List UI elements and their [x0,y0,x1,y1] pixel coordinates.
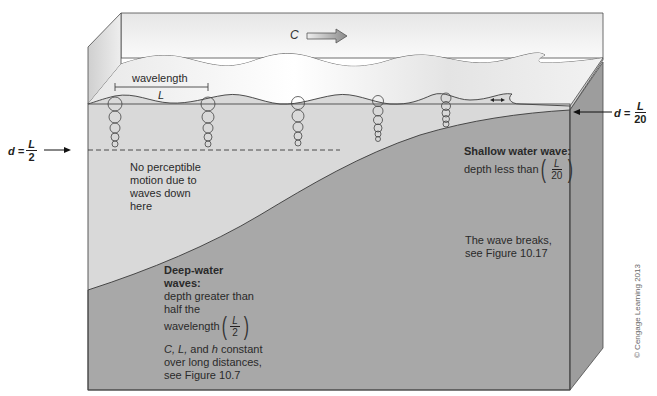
shallow-fraction: ( L 20 ) [539,156,575,182]
deep-title-line-2: waves: [164,277,262,290]
wave-diagram: C wavelength L d = L 2 d = L 20 No perce… [0,0,657,396]
deep-limit-label: d = L 2 [8,138,39,163]
deep-constant-and: and [187,343,211,355]
no-motion-line-3: waves down [130,187,201,200]
no-motion-line-1: No perceptible [130,161,201,174]
back-wall [121,13,603,58]
deep-constant-line-3: see Figure 10.7 [164,369,262,382]
wave-breaks-line-1: The wave breaks, [465,234,552,247]
wavelength-label: wavelength [132,72,188,85]
no-motion-line-2: motion due to [130,174,201,187]
deep-limit-lhs: d = [8,145,24,157]
box-right-face [570,58,603,390]
deep-constant-line-1: C, L, and h constant [164,343,262,356]
arrow-deep-limit [44,147,71,153]
shallow-limit-denominator: 20 [632,113,648,125]
deep-limit-denominator: 2 [27,151,37,163]
shallow-limit-fraction: L 20 [632,100,648,125]
wave-breaks-line-2: see Figure 10.17 [465,247,552,260]
deep-fraction: ( L 2 ) [220,313,251,339]
shallow-frac-numerator: L [552,158,562,170]
deep-constant-rest: constant [218,343,263,355]
shallow-desc: depth less than ( L 20 ) [464,156,575,182]
shallow-limit-label: d = L 20 [614,100,650,125]
wave-breaks-note: The wave breaks, see Figure 10.17 [465,234,552,260]
shallow-limit-numerator: L [635,100,646,113]
no-motion-note: No perceptible motion due to waves down … [130,161,201,213]
deep-constant-line-2: over long distances, [164,356,262,369]
shallow-desc-text: depth less than [464,163,539,176]
deep-frac-numerator: L [230,315,240,327]
shallow-limit-lhs: d = [614,107,630,119]
wavelength-symbol: L [158,89,164,102]
deep-frac-denominator: 2 [230,327,240,338]
deep-constant-symbols: C, L, [164,343,187,355]
deep-desc-line-1: depth greater than [164,290,262,303]
deep-water-note: Deep-water waves: depth greater than hal… [164,264,262,382]
deep-limit-numerator: L [26,138,37,151]
deep-desc-wavelength: wavelength [164,320,220,333]
deep-desc-line-3: wavelength ( L 2 ) [164,313,262,339]
shallow-frac-denominator: 20 [549,170,564,181]
copyright-notice: © Cengage Learning 2013 [633,264,642,358]
no-motion-line-4: here [130,200,201,213]
deep-title-line-1: Deep-water [164,264,262,277]
deep-limit-fraction: L 2 [26,138,37,163]
diagram-graphics [0,0,657,396]
celerity-label: C [290,28,299,42]
